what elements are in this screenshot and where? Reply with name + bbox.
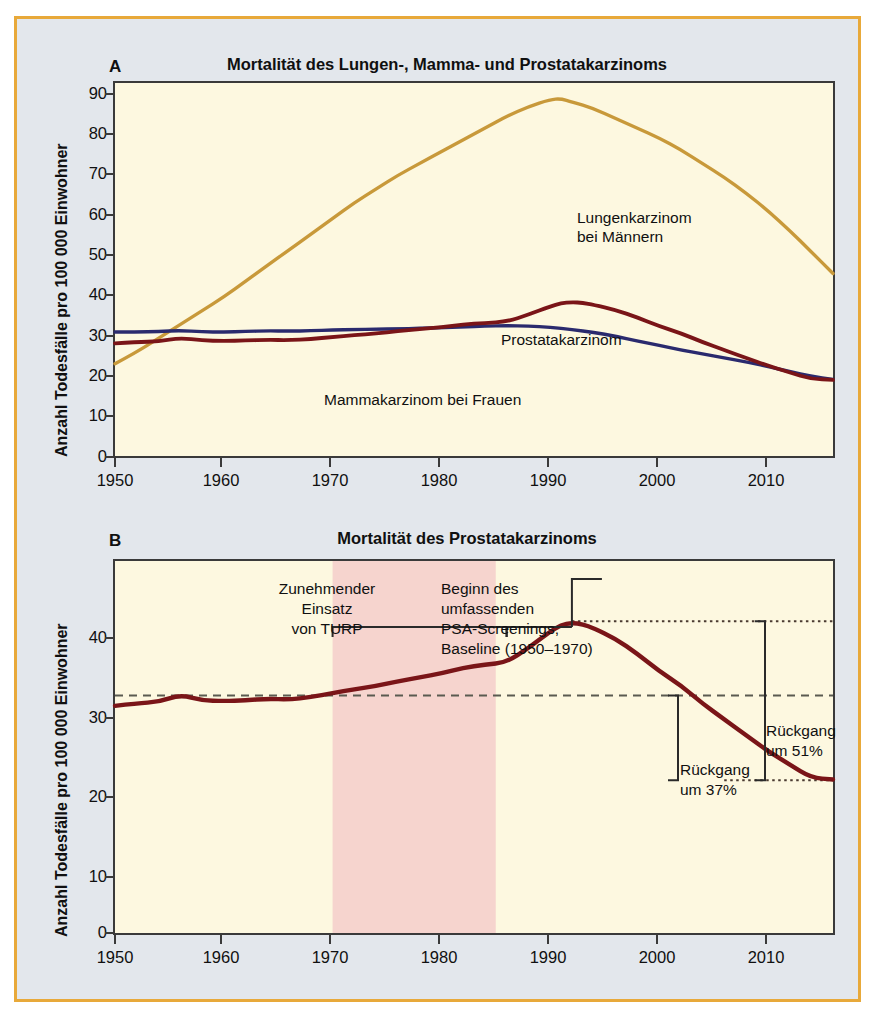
panel-a-ytickmark — [105, 294, 113, 296]
panel-b-letter: B — [109, 531, 121, 551]
panel-b-ytickmark — [105, 932, 113, 934]
panel-b-ytickmark — [105, 637, 113, 639]
panel-b-xtickmark — [114, 935, 116, 944]
panel-a-lung-label-line1: Lungenkarzinom — [577, 209, 692, 227]
panel-a-ytickmark — [105, 375, 113, 377]
panel-a-xtick-1950: 1950 — [85, 471, 145, 490]
panel-a-ytick-10: 10 — [65, 406, 107, 425]
panel-b-turp-line3: von TURP — [242, 620, 412, 638]
panel-b-decline37-line1: Rückgang — [680, 761, 750, 779]
panel-b-xtick-1950: 1950 — [85, 948, 145, 967]
panel-b-xtickmark — [220, 935, 222, 944]
panel-a-ytick-20: 20 — [65, 366, 107, 385]
panel-a-ytick-80: 80 — [65, 124, 107, 143]
decline-51-bracket — [755, 621, 765, 780]
panel-a-ytick-50: 50 — [65, 245, 107, 264]
panel-a-ytickmark — [105, 254, 113, 256]
panel-b-xtick-1980: 1980 — [409, 948, 469, 967]
panel-b-title: Mortalität des Prostatakarzinoms — [217, 529, 717, 548]
panel-b-xtickmark — [329, 935, 331, 944]
panel-a-lung-label-line2: bei Männern — [577, 228, 663, 246]
panel-a-ytickmark — [105, 214, 113, 216]
panel-b-xtickmark — [765, 935, 767, 944]
panel-b-turp-line2: Einsatz — [242, 600, 412, 618]
panel-b-ytick-0: 0 — [65, 923, 107, 942]
panel-a-xtick-1980: 1980 — [409, 471, 469, 490]
decline-37-bracket — [668, 696, 678, 781]
panel-a-xtick-1970: 1970 — [300, 471, 360, 490]
panel-b-xtickmark — [547, 935, 549, 944]
panel-b-psa-line4: Baseline (1950–1970) — [441, 640, 593, 658]
panel-b-psa-line2: umfassenden — [441, 600, 534, 618]
panel-a-xtickmark — [656, 458, 658, 467]
panel-a-xtickmark — [220, 458, 222, 467]
panel-a-ytickmark — [105, 335, 113, 337]
panel-b-psa-line3: PSA-Screenings, — [441, 620, 559, 638]
panel-a-xtickmark — [438, 458, 440, 467]
panel-b-decline37-line2: um 37% — [680, 781, 737, 799]
panel-b-ytick-40: 40 — [65, 628, 107, 647]
panel-a-prostate-label: Prostatakarzinom — [501, 331, 622, 349]
panel-a-xtickmark — [765, 458, 767, 467]
panel-b-ylabel: Anzahl Todesfälle pro 100 000 Einwohner — [53, 623, 71, 937]
panel-b-ytick-30: 30 — [65, 708, 107, 727]
panel-b-decline51-line2: um 51% — [766, 742, 823, 760]
panel-b-ytick-10: 10 — [65, 867, 107, 886]
panel-b-xtickmark — [438, 935, 440, 944]
panel-b-xtick-1970: 1970 — [300, 948, 360, 967]
panel-a-ytick-40: 40 — [65, 285, 107, 304]
panel-a-ytick-0: 0 — [65, 447, 107, 466]
panel-a-xtick-2010: 2010 — [736, 471, 796, 490]
panel-a-xtick-2000: 2000 — [627, 471, 687, 490]
panel-a-breast-label: Mammakarzinom bei Frauen — [324, 391, 521, 409]
panel-b-psa-line1: Beginn des — [441, 580, 519, 598]
panel-a-ytickmark — [105, 415, 113, 417]
panel-b-ytickmark — [105, 796, 113, 798]
panel-b-xtick-1960: 1960 — [191, 948, 251, 967]
panel-a-xtickmark — [329, 458, 331, 467]
panel-a-ytick-60: 60 — [65, 205, 107, 224]
panel-a-ytick-90: 90 — [65, 84, 107, 103]
prostate-cancer-line — [115, 302, 833, 380]
panel-b-xtick-1990: 1990 — [518, 948, 578, 967]
panel-a-ytickmark — [105, 133, 113, 135]
panel-b-xtick-2000: 2000 — [627, 948, 687, 967]
figure-frame: A Mortalität des Lungen-, Mamma- und Pro… — [14, 16, 861, 1002]
panel-a-ytick-30: 30 — [65, 326, 107, 345]
panel-a-xtick-1960: 1960 — [191, 471, 251, 490]
panel-b-xtick-2010: 2010 — [736, 948, 796, 967]
panel-a-xtick-1990: 1990 — [518, 471, 578, 490]
panel-b-decline51-line1: Rückgang — [766, 722, 836, 740]
panel-a-xtickmark — [547, 458, 549, 467]
panel-a-xtickmark — [114, 458, 116, 467]
panel-b-ytickmark — [105, 717, 113, 719]
breast-cancer-line — [115, 326, 833, 380]
panel-b-xtickmark — [656, 935, 658, 944]
panel-a-title: Mortalität des Lungen-, Mamma- und Prost… — [147, 55, 747, 74]
panel-a-ytick-70: 70 — [65, 164, 107, 183]
panel-b-ytick-20: 20 — [65, 787, 107, 806]
panel-a-ytickmark — [105, 173, 113, 175]
panel-b-turp-line1: Zunehmender — [242, 580, 412, 598]
panel-a-ytickmark — [105, 93, 113, 95]
panel-a-letter: A — [109, 57, 121, 77]
panel-a-ytickmark — [105, 456, 113, 458]
panel-b-ytickmark — [105, 876, 113, 878]
